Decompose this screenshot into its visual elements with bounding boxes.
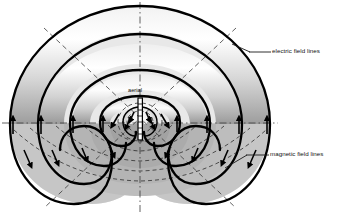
aerial-field-diagram: electric field lines magnetic field line… xyxy=(0,0,337,214)
diagram-canvas xyxy=(0,0,337,214)
label-aerial: aerial xyxy=(128,86,142,94)
aerial-rod xyxy=(138,98,142,140)
label-electric-field-lines: electric field lines xyxy=(272,47,320,55)
label-magnetic-field-lines: magnetic field lines xyxy=(270,150,323,158)
